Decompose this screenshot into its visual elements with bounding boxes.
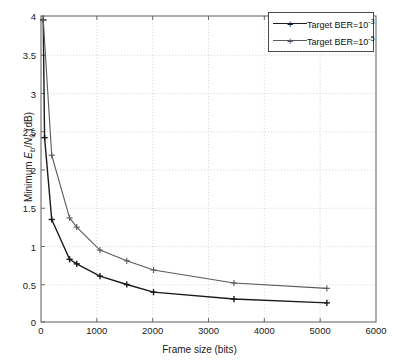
data-point-plus-marker [150, 267, 156, 273]
tick-marks [41, 16, 320, 322]
data-point-plus-marker [124, 258, 130, 264]
series-ber-1e-3 [40, 17, 330, 306]
legend-entry-ber-1e-5[interactable]: + Target BER=10-5 [269, 32, 373, 49]
data-point-plus-marker [231, 296, 237, 302]
legend-swatch-ber-1e-3: + [273, 18, 307, 30]
ytick-label: 3.5 [23, 50, 36, 61]
series-line [43, 20, 327, 303]
line-chart-plot [0, 0, 399, 363]
series-ber-1e-5 [40, 17, 330, 292]
xtick-label: 3000 [198, 325, 219, 336]
xtick-label: 4000 [254, 325, 275, 336]
legend-entry-ber-1e-3[interactable]: + Target BER=10-3 [269, 15, 373, 32]
ytick-label: 4 [31, 11, 36, 22]
legend-label-ber-1e-3: Target BER=10-3 [307, 18, 375, 30]
data-point-plus-marker [231, 280, 237, 286]
y-axis-title-prefix: Minimum [23, 159, 34, 202]
grid-lines [41, 16, 376, 322]
xtick-label: 1000 [86, 325, 107, 336]
y-axis-symbol-n: N [23, 138, 34, 145]
data-point-plus-marker [41, 135, 47, 141]
y-axis-title-suffix: (dB) [23, 112, 34, 134]
series-line [43, 20, 327, 289]
xtick-label: 6000 [365, 325, 386, 336]
y-axis-sub-0: 0 [28, 134, 37, 138]
x-axis-title: Frame size (bits) [0, 344, 399, 355]
legend-label-ber-1e-5: Target BER=10-5 [307, 35, 375, 47]
data-point-plus-marker [97, 273, 103, 279]
ytick-label: 0 [31, 317, 36, 328]
data-point-plus-marker [124, 281, 130, 287]
data-point-plus-marker [324, 300, 330, 306]
xtick-label: 5000 [310, 325, 331, 336]
ytick-label: 0.5 [23, 279, 36, 290]
xtick-label: 0 [38, 325, 43, 336]
data-point-plus-marker [150, 289, 156, 295]
data-series-layer [40, 17, 330, 306]
data-point-plus-marker [49, 152, 55, 158]
chart-legend[interactable]: + Target BER=10-3 + Target BER=10-5 [268, 12, 374, 52]
data-point-plus-marker [49, 216, 55, 222]
y-axis-slash: / [23, 145, 34, 148]
y-axis-sub-b: b [28, 148, 37, 152]
chart-figure: 0 0.5 1 1.5 2 2.5 3 3.5 4 0 1000 2000 30… [0, 0, 399, 363]
plus-marker-icon: + [287, 36, 293, 46]
data-point-plus-marker [324, 285, 330, 291]
y-axis-title: Minimum Eb/N0 (dB) [23, 67, 37, 247]
legend-swatch-ber-1e-5: + [273, 35, 307, 47]
plus-marker-icon: + [287, 19, 293, 29]
y-axis-symbol-eb: E [23, 152, 34, 159]
xtick-label: 2000 [142, 325, 163, 336]
